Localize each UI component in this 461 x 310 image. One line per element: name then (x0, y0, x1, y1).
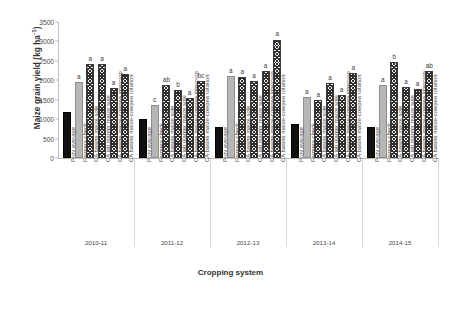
x-axis-category-label: Prov average (298, 127, 304, 162)
significance-letter: b (387, 53, 401, 60)
y-axis-tick-label: 500 (14, 135, 54, 142)
x-axis-category-label: CA basins maize-cowpea intercrop (269, 71, 275, 162)
x-axis-category-label: CA basins maize-cowpea intercrop (193, 71, 199, 162)
x-axis-category-label: CA basins maize-cowpea rotation (432, 75, 438, 162)
x-axis-category-label: Prov average (222, 127, 228, 162)
significance-letter: a (376, 76, 390, 83)
x-axis-category-label: CA basins maize-cowpea intercrop (345, 71, 351, 162)
significance-letter: a (259, 62, 273, 69)
x-axis-group-label: 2012-13 (218, 239, 278, 246)
y-axis-title-tail: ) (33, 26, 42, 29)
x-axis-category-label: CA basins maize-cowpea rotation (356, 75, 362, 162)
y-axis-tick-label: 3000 (14, 38, 54, 45)
y-axis-tick-label: 2500 (14, 57, 54, 64)
x-axis-category-label: Farmers check (158, 123, 164, 162)
group-separator (134, 159, 135, 247)
y-axis-tick-label: 1000 (14, 116, 54, 123)
y-axis-tick-label: 0 (14, 155, 54, 162)
significance-letter: ab (422, 62, 436, 69)
y-axis-tick-label: 3500 (14, 19, 54, 26)
x-axis-category-label: CA basins maize-cowpea rotation (280, 75, 286, 162)
y-axis-tick-label: 2000 (14, 77, 54, 84)
x-axis-category-label: Prov average (70, 127, 76, 162)
x-axis-category-label: CA jab planter maize sole (181, 95, 187, 162)
group-separator (286, 159, 287, 247)
x-axis-category-label: CA basins maize-cowpea intercrop (117, 71, 123, 162)
x-axis-category-label: CA basins maize sole (245, 106, 251, 162)
x-axis-category-label: CA jab planter maize sole (105, 95, 111, 162)
significance-letter: a (72, 73, 86, 80)
x-axis-title: Cropping system (0, 268, 461, 277)
significance-letter: b (171, 81, 185, 88)
x-axis-category-label: Farmers check (310, 123, 316, 162)
x-axis-category-label: Farmers check (234, 123, 240, 162)
y-axis-title-exponent: -1 (30, 29, 37, 35)
x-axis-category-label: Farmers check (386, 123, 392, 162)
chart-page: Maize grain yield (kg ha-1) 050010001500… (0, 0, 461, 310)
x-axis-category-label: CA jab planter maize sole (257, 95, 263, 162)
significance-letter: a (247, 72, 261, 79)
x-axis-category-label: CA basins maize-cowpea rotation (204, 75, 210, 162)
x-axis-group-label: 2014-15 (370, 239, 430, 246)
x-axis-category-label: CA basins maize sole (397, 106, 403, 162)
x-axis-category-label: CA basins maize sole (93, 106, 99, 162)
significance-letter: a (311, 91, 325, 98)
x-axis-category-label: Prov average (146, 127, 152, 162)
group-separator (362, 159, 363, 247)
x-axis-category-label: CA basins maize-cowpea intercrop (421, 71, 427, 162)
x-axis-category-label: Farmers check (82, 123, 88, 162)
y-axis-tick-label: 1500 (14, 96, 54, 103)
x-axis-category-label: CA jab planter maize sole (409, 95, 415, 162)
x-axis-group-label: 2013-14 (294, 239, 354, 246)
significance-letter: c (148, 96, 162, 103)
x-axis-category-label: CA basins maize-cowpea rotation (128, 75, 134, 162)
group-separator (210, 159, 211, 247)
x-axis-group-label: 2010-11 (66, 239, 126, 246)
x-axis-category-label: CA basins maize sole (169, 106, 175, 162)
x-axis-group-label: 2011-12 (142, 239, 202, 246)
significance-letter: a (270, 30, 284, 37)
x-axis-category-label: CA jab planter maize sole (333, 95, 339, 162)
x-axis-category-label: CA basins maize sole (321, 106, 327, 162)
significance-letter: a (95, 55, 109, 62)
x-axis-category-label: Prov average (374, 127, 380, 162)
significance-letter: a (323, 74, 337, 81)
group-separator (438, 159, 439, 247)
